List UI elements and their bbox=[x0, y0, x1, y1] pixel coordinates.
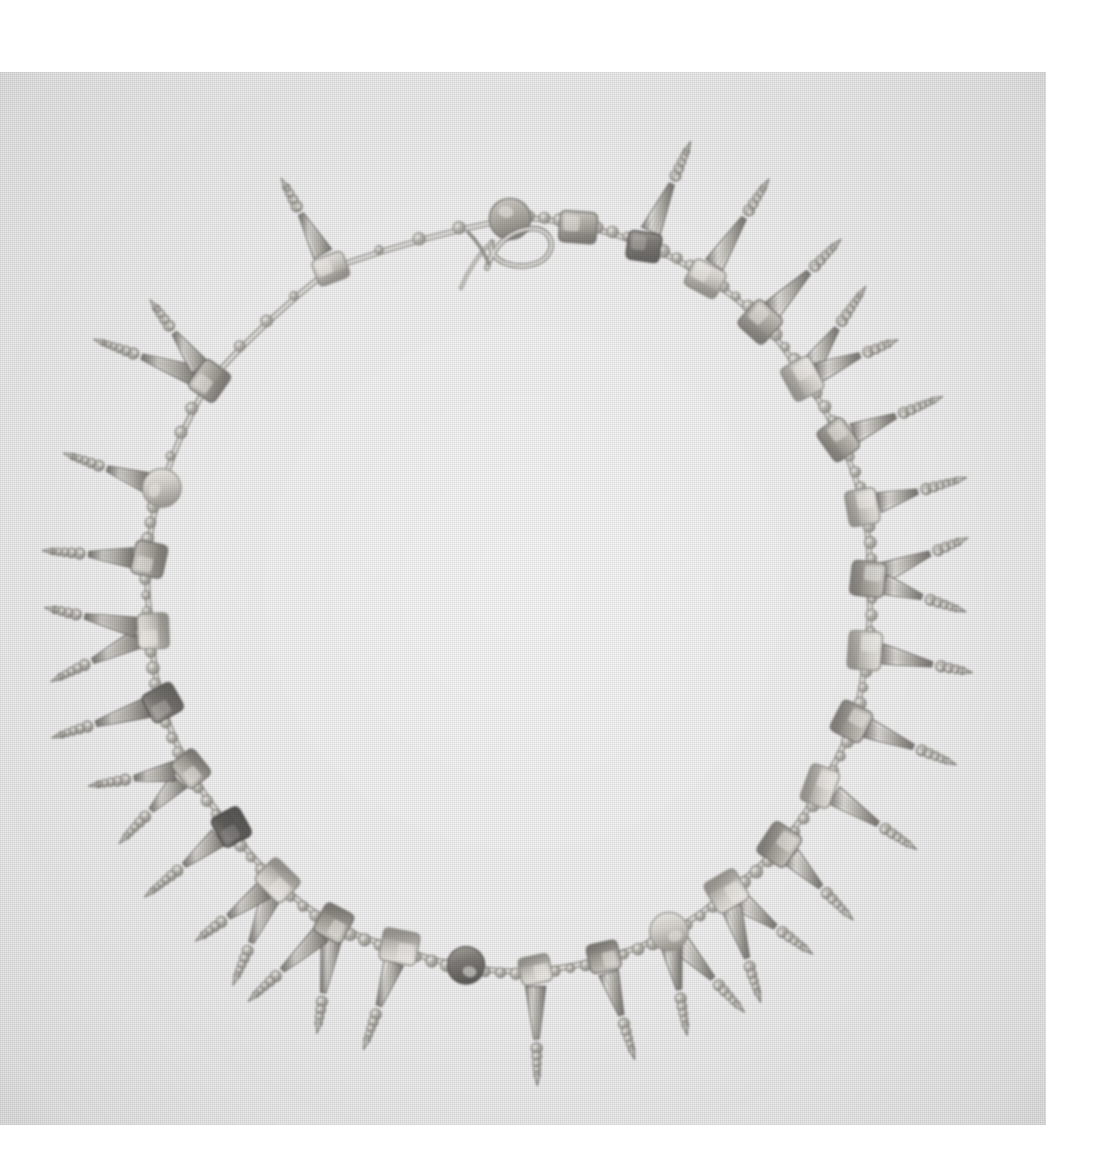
pendant-drop bbox=[850, 397, 943, 443]
round-bead bbox=[650, 913, 688, 951]
chain-link bbox=[672, 253, 682, 263]
necklace-illustration bbox=[0, 72, 1046, 1125]
square-bead bbox=[130, 539, 169, 579]
chain-link bbox=[732, 292, 740, 300]
drop-tip bbox=[44, 607, 55, 613]
chain-link bbox=[539, 213, 550, 224]
pendant-drop bbox=[880, 538, 968, 582]
square-bead bbox=[625, 230, 662, 263]
drop-tip bbox=[629, 1048, 635, 1059]
pendant-drop bbox=[876, 478, 967, 513]
chain-link bbox=[166, 452, 174, 460]
square-bead bbox=[847, 630, 883, 671]
chain-link bbox=[186, 403, 198, 415]
square-bead bbox=[378, 927, 420, 966]
pendant-drop bbox=[88, 762, 176, 788]
chain-link bbox=[175, 426, 187, 438]
chain-link bbox=[375, 246, 383, 254]
drop-tip bbox=[63, 453, 74, 460]
pendant-drop bbox=[526, 986, 546, 1085]
drop-tip bbox=[932, 397, 943, 404]
drop-tip bbox=[956, 478, 967, 484]
drop-tip bbox=[52, 732, 63, 738]
pendant-drop bbox=[599, 970, 635, 1060]
drop-tip bbox=[684, 141, 691, 152]
pendant-drop bbox=[52, 698, 150, 738]
chain-link bbox=[696, 911, 705, 920]
pendant-drop bbox=[44, 606, 138, 637]
chain-link bbox=[781, 343, 789, 351]
chain-link bbox=[453, 222, 465, 234]
drop-tip bbox=[364, 1038, 371, 1049]
square-bead bbox=[558, 211, 597, 245]
chain-link bbox=[147, 662, 159, 674]
chain-link bbox=[859, 683, 868, 692]
chain-link bbox=[426, 955, 438, 967]
chain-link bbox=[633, 944, 644, 955]
drop-tip bbox=[755, 991, 761, 1002]
pendant-drop bbox=[784, 850, 853, 920]
chain-link bbox=[496, 968, 506, 978]
drop-tip bbox=[88, 781, 99, 787]
pendant-drop bbox=[706, 179, 769, 270]
pendant-drop bbox=[881, 575, 966, 612]
chain-link bbox=[298, 901, 308, 911]
drop-tip bbox=[682, 1024, 688, 1035]
drop-cone bbox=[84, 614, 138, 637]
drop-cone bbox=[662, 947, 682, 990]
chain-link bbox=[836, 751, 845, 760]
drop-tip bbox=[233, 974, 240, 985]
pendant-drop bbox=[364, 960, 404, 1050]
drop-tip bbox=[316, 1022, 322, 1033]
chain-link bbox=[359, 934, 371, 946]
chain-link bbox=[167, 733, 177, 743]
square-bead bbox=[137, 613, 169, 649]
pendant-drop bbox=[144, 830, 224, 897]
photograph-frame bbox=[0, 72, 1046, 1125]
drop-tip bbox=[887, 340, 898, 347]
pendant-drop bbox=[42, 548, 133, 568]
drop-tip bbox=[94, 339, 105, 346]
chain-link bbox=[413, 233, 425, 245]
chain-link bbox=[566, 964, 574, 972]
drop-tip bbox=[51, 674, 62, 682]
square-bead bbox=[585, 939, 622, 974]
round-bead bbox=[143, 469, 181, 507]
chain-link bbox=[607, 226, 618, 237]
pendant-drop bbox=[315, 938, 341, 1033]
drop-tip bbox=[961, 668, 972, 674]
drop-cone bbox=[321, 938, 341, 993]
chain-link bbox=[850, 467, 860, 477]
clasp-icon bbox=[461, 229, 551, 288]
pendant-drop bbox=[281, 178, 331, 259]
pendant-drop bbox=[765, 239, 841, 317]
pendant-drop bbox=[63, 453, 149, 492]
chain-link bbox=[145, 517, 155, 527]
pendant-drop bbox=[51, 630, 143, 682]
drop-tip bbox=[955, 606, 966, 612]
chain-link bbox=[750, 866, 762, 878]
square-bead bbox=[517, 953, 553, 986]
drop-tip bbox=[957, 538, 968, 545]
round-bead bbox=[447, 947, 484, 984]
chain-link bbox=[799, 813, 809, 823]
pendant-drop bbox=[642, 141, 691, 235]
chain-link bbox=[865, 537, 877, 549]
chain-link bbox=[819, 401, 831, 413]
chain-link bbox=[202, 795, 213, 806]
square-bead bbox=[844, 487, 880, 527]
chain-link bbox=[866, 610, 877, 621]
chain-link bbox=[142, 591, 150, 599]
pendant-drop bbox=[829, 787, 917, 850]
chain-link bbox=[290, 292, 298, 300]
chain-link bbox=[261, 315, 272, 326]
pendant-drop bbox=[248, 927, 328, 1001]
chain-link bbox=[235, 341, 245, 351]
square-bead bbox=[849, 560, 886, 598]
drop-tip bbox=[945, 758, 956, 765]
drop-tip bbox=[534, 1075, 540, 1086]
drop-cone bbox=[89, 548, 134, 568]
pendant-drop bbox=[863, 719, 956, 765]
pendant-drop bbox=[119, 774, 186, 844]
pendant-drop bbox=[879, 644, 972, 674]
